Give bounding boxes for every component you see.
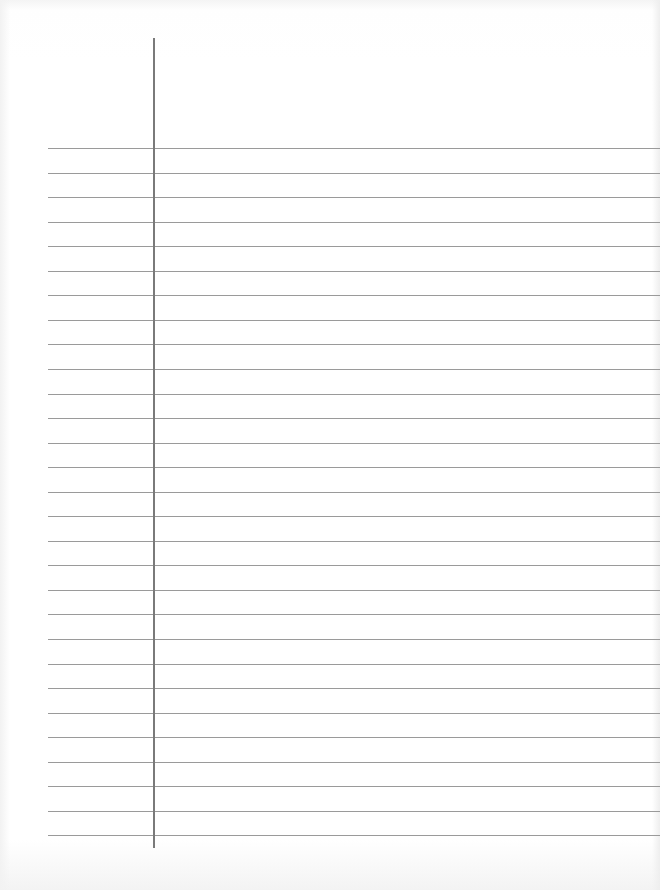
- right-edge-shadow: [652, 0, 660, 890]
- ruled-line: [48, 443, 660, 444]
- ruled-line: [48, 713, 660, 714]
- margin-line: [153, 38, 155, 848]
- ruled-line: [48, 246, 660, 247]
- ruled-line: [48, 737, 660, 738]
- ruled-line: [48, 271, 660, 272]
- ruled-line: [48, 614, 660, 615]
- ruled-line: [48, 811, 660, 812]
- ruled-line: [48, 222, 660, 223]
- ruled-line: [48, 295, 660, 296]
- ruled-line: [48, 344, 660, 345]
- ruled-line: [48, 418, 660, 419]
- ruled-line: [48, 148, 660, 149]
- ruled-line: [48, 467, 660, 468]
- ruled-line: [48, 590, 660, 591]
- ruled-line: [48, 492, 660, 493]
- ruled-line: [48, 835, 660, 836]
- ruled-line: [48, 369, 660, 370]
- ruled-line: [48, 197, 660, 198]
- ruled-line: [48, 786, 660, 787]
- ruled-line: [48, 688, 660, 689]
- ruled-line: [48, 565, 660, 566]
- ruled-line: [48, 664, 660, 665]
- ruled-line: [48, 394, 660, 395]
- ruled-line: [48, 762, 660, 763]
- left-edge-shadow: [0, 0, 10, 890]
- ruled-line: [48, 320, 660, 321]
- ruled-line: [48, 516, 660, 517]
- ruled-line: [48, 639, 660, 640]
- lined-paper-sheet: [0, 0, 660, 890]
- ruled-line: [48, 541, 660, 542]
- ruled-line: [48, 173, 660, 174]
